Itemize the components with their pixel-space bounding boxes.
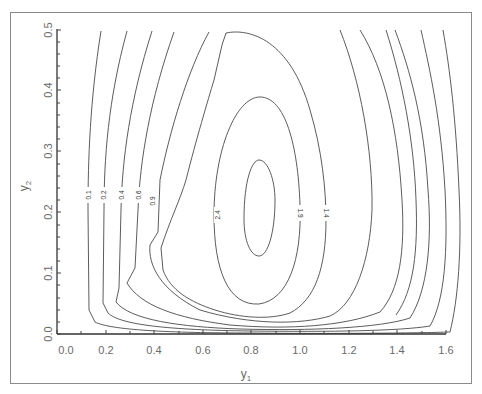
contour-0.6 (127, 30, 403, 327)
contour-label: 1.4 (323, 208, 330, 217)
x-axis-title-sub: 1 (247, 374, 252, 383)
x-tick-label: 1.6 (438, 344, 453, 356)
x-tick-label: 0.4 (146, 344, 161, 356)
x-tick-label: 1.2 (341, 344, 356, 356)
svg-text:y2: y2 (17, 180, 33, 191)
contour-label: 0.9 (149, 196, 156, 205)
x-tick-labels: 0.0 0.2 0.4 0.6 0.8 1.0 1.2 1.4 1.6 (58, 344, 453, 356)
contour-0.1 (88, 30, 460, 333)
contour-label: 0.6 (135, 190, 142, 199)
x-tick-label: 0.0 (58, 344, 73, 356)
x-tick-label: 1.4 (389, 344, 404, 356)
chart-frame (11, 13, 472, 384)
y-tick-label: 0.4 (42, 82, 54, 97)
x-axis-title: y1 (241, 367, 252, 383)
contour-label: 2.4 (214, 210, 221, 219)
x-tick-label: 1.0 (292, 344, 307, 356)
contour-lines (88, 30, 460, 333)
contour-1.4 (161, 32, 326, 317)
x-tick-label: 0.6 (195, 344, 210, 356)
y-tick-label: 0.2 (42, 204, 54, 219)
contour-2.4 (244, 160, 275, 256)
y-tick-label: 0.3 (42, 143, 54, 158)
contour-label: 1.9 (297, 208, 304, 217)
y-tick-label: 0.5 (42, 22, 54, 37)
y-tick-label: 0.1 (42, 265, 54, 280)
y-axis-title-sub: 2 (24, 180, 33, 185)
x-tick-label: 0.2 (98, 344, 113, 356)
contour-chart: 0.1 0.2 0.4 0.6 0.9 2.4 1.9 1.4 (0, 0, 482, 394)
contour-0.9 (150, 30, 372, 322)
y-tick-labels: 0.0 0.1 0.2 0.3 0.4 0.5 (42, 22, 54, 341)
svg-text:y1: y1 (241, 367, 252, 383)
contour-label: 0.1 (85, 190, 92, 199)
contour-1.9 (214, 97, 300, 304)
contour-outer-right-1 (386, 30, 416, 315)
contour-label: 0.2 (100, 190, 107, 199)
contour-label: 0.4 (118, 190, 125, 199)
y-axis-title: y2 (17, 180, 33, 191)
x-tick-label: 0.8 (243, 344, 258, 356)
y-tick-label: 0.0 (42, 326, 54, 341)
contour-labels: 0.1 0.2 0.4 0.6 0.9 2.4 1.9 1.4 (85, 187, 330, 223)
